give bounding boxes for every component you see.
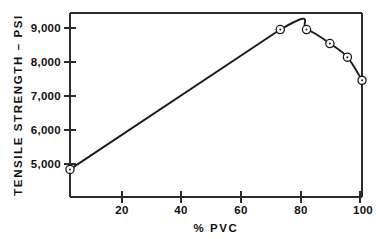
x-tick-label-60: 60 <box>234 204 247 216</box>
y-tick-label-5000: 5,000 <box>31 158 61 170</box>
chart-background <box>0 0 379 239</box>
data-point-marker-center <box>346 56 348 58</box>
x-tick-label-20: 20 <box>115 204 128 216</box>
x-tick-label-40: 40 <box>174 204 187 216</box>
data-point-marker-center <box>329 43 331 45</box>
y-tick-label-9000: 9,000 <box>31 22 61 34</box>
data-point-marker-center <box>361 79 363 81</box>
y-axis-title: TENSILE STRENGTH – PSI <box>12 14 24 196</box>
x-axis-title: % PVC <box>193 222 238 234</box>
y-tick-label-6000: 6,000 <box>31 124 61 136</box>
x-tick-label-100: 100 <box>353 204 373 216</box>
y-tick-label-7000: 7,000 <box>31 90 61 102</box>
tensile-strength-line-chart: 9,000 8,000 7,000 6,000 5,000 20 40 60 8… <box>0 0 379 239</box>
data-point-marker-center <box>69 168 71 170</box>
data-point-marker-center <box>279 29 281 31</box>
y-tick-label-8000: 8,000 <box>31 56 61 68</box>
x-tick-label-80: 80 <box>294 204 307 216</box>
chart-figure: 9,000 8,000 7,000 6,000 5,000 20 40 60 8… <box>0 0 379 239</box>
data-point-marker-center <box>306 29 308 31</box>
